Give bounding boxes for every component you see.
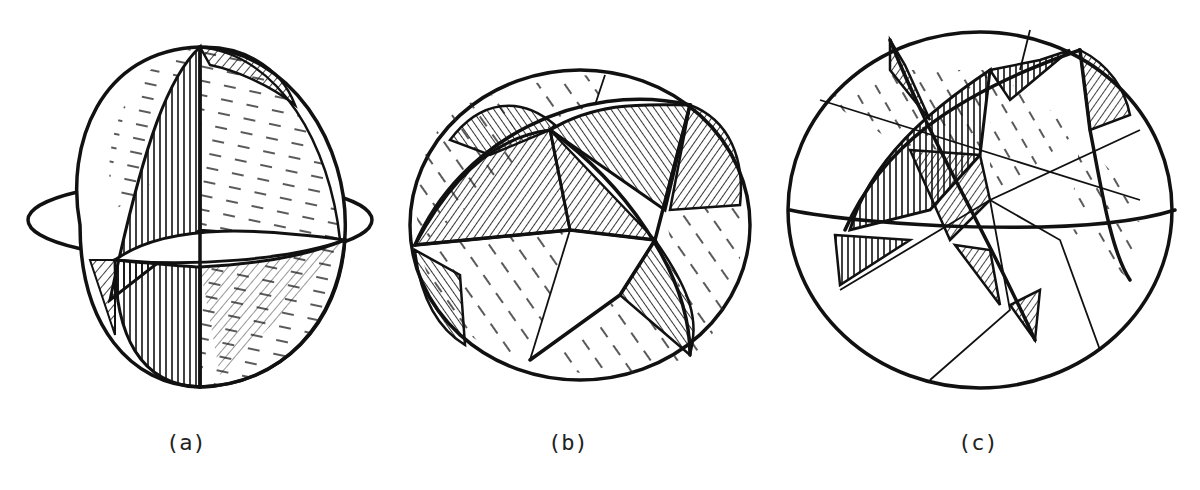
sphere-figure-b: [400, 60, 760, 390]
sphere-c-drawing: [780, 20, 1180, 390]
caption-b: (b): [548, 430, 588, 455]
sphere-b-drawing: [400, 60, 760, 390]
sphere-figure-c: [780, 20, 1180, 390]
caption-c: (c): [958, 430, 998, 455]
sphere-a-drawing: [20, 35, 380, 395]
caption-a: (a): [166, 430, 206, 455]
sphere-figure-a: [20, 35, 380, 395]
